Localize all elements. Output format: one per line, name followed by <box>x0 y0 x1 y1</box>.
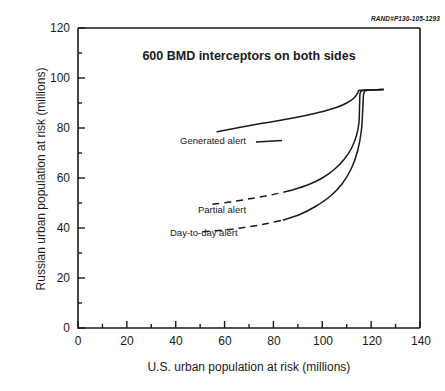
series-label-partial-alert: Partial alert <box>198 204 246 215</box>
axes-frame <box>78 28 420 328</box>
chart-figure: RAND#P130-105-1293 600 BMD interceptors … <box>0 0 445 391</box>
plot-area <box>0 0 445 391</box>
series-label-day-to-day-alert: Day-to-day alert <box>170 227 238 238</box>
axis-ticks <box>78 28 420 328</box>
annotation-leader-lines <box>256 141 282 143</box>
series-label-generated-alert: Generated alert <box>180 135 246 146</box>
